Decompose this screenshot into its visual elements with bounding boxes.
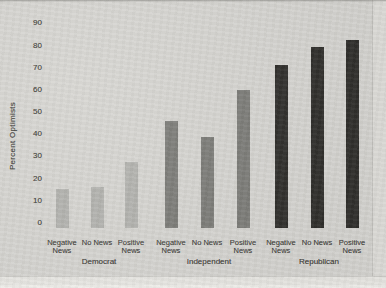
- group-label-democrat: Democrat: [64, 257, 134, 266]
- y-tick-label: 20: [18, 174, 42, 183]
- y-tick-label: 0: [18, 218, 42, 227]
- y-tick-label: 90: [18, 18, 42, 27]
- bar-republican-negative-news: [275, 65, 288, 228]
- group-label-republican: Republican: [284, 257, 354, 266]
- bar-democrat-positive-news: [125, 162, 138, 228]
- y-tick-label: 30: [18, 151, 42, 160]
- bar-independent-no-news: [201, 137, 214, 227]
- bar-democrat-no-news: [91, 187, 104, 228]
- scanned-page: Percent Optimists 0102030405060708090Neg…: [0, 0, 386, 288]
- bar-label: Positive News: [109, 239, 153, 255]
- bar-independent-negative-news: [165, 121, 178, 227]
- bar-label: Positive News: [330, 239, 374, 255]
- group-label-independent: Independent: [174, 257, 244, 266]
- bar-democrat-negative-news: [56, 189, 69, 227]
- bar-chart: Percent Optimists 0102030405060708090Neg…: [0, 0, 386, 288]
- y-tick-label: 60: [18, 85, 42, 94]
- y-tick-label: 10: [18, 196, 42, 205]
- y-tick-label: 50: [18, 107, 42, 116]
- bar-republican-no-news: [311, 47, 324, 228]
- y-tick-label: 70: [18, 63, 42, 72]
- y-tick-label: 80: [18, 41, 42, 50]
- bar-republican-positive-news: [346, 40, 359, 228]
- bar-independent-positive-news: [237, 90, 250, 228]
- y-tick-label: 40: [18, 129, 42, 138]
